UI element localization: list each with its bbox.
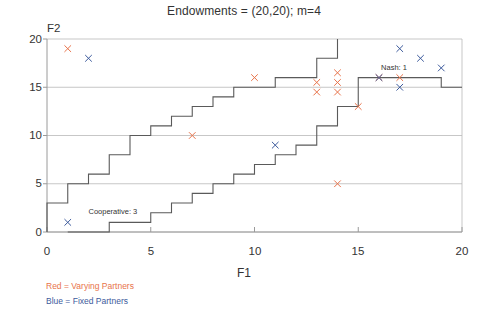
legend-fixed-partners: Blue = Fixed Partners [46,296,128,306]
plot-area [0,0,488,318]
legend-varying-partners: Red = Varying Partners [46,281,134,291]
cooperative-annotation: Cooperative: 3 [89,207,138,216]
nash-annotation: Nash: 1 [381,63,407,72]
chart-container: Endowments = (20,20); m=4 F2 F1 20 15 10… [0,0,488,318]
